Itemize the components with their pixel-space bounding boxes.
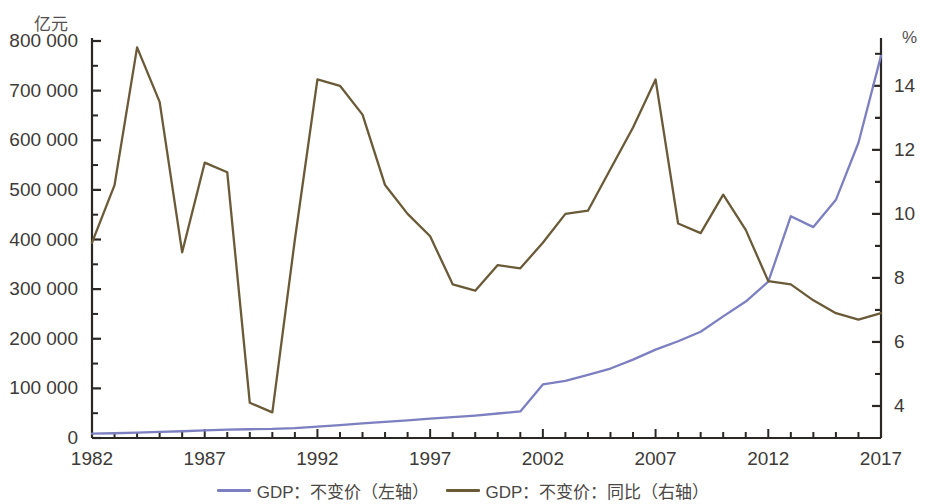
- legend-label-1: GDP：不变价（左轴）: [257, 478, 430, 503]
- chart-legend: GDP：不变价（左轴）GDP：不变价：同比（右轴）: [0, 478, 926, 503]
- series-line-1: [92, 56, 881, 434]
- legend-item-1[interactable]: GDP：不变价（左轴）: [217, 478, 430, 503]
- series-lines: [92, 47, 881, 433]
- legend-swatch-1: [217, 489, 251, 492]
- axis-lines: [92, 38, 881, 438]
- gdp-chart: 亿元 % 0100 000200 000300 000400 000500 00…: [0, 0, 926, 504]
- tick-marks: [92, 41, 881, 438]
- legend-item-2[interactable]: GDP：不变价：同比（右轴）: [446, 478, 710, 503]
- legend-label-2: GDP：不变价：同比（右轴）: [486, 478, 710, 503]
- plot-area: [0, 0, 926, 504]
- series-line-2: [92, 47, 881, 412]
- legend-swatch-2: [446, 489, 480, 492]
